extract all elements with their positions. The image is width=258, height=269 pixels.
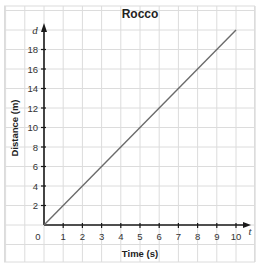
x-variable-label: t [248, 225, 252, 237]
x-tick-label: 4 [118, 231, 123, 242]
y-variable-label: d [32, 24, 38, 36]
y-tick-label: 2 [33, 200, 38, 211]
distance-time-chart: Rocco 1234567891024681012141618 Distance… [0, 0, 258, 269]
y-axis-arrow-icon [41, 23, 47, 32]
chart-title: Rocco [122, 7, 159, 21]
y-tick-label: 16 [27, 64, 38, 75]
x-tick-label: 7 [176, 231, 181, 242]
x-axis-label: Time (s) [122, 248, 158, 259]
y-tick-label: 10 [27, 122, 38, 133]
origin-label: 0 [35, 231, 40, 242]
x-tick-label: 10 [231, 231, 242, 242]
x-tick-label: 3 [99, 231, 104, 242]
y-tick-label: 18 [27, 44, 38, 55]
y-tick-label: 14 [27, 83, 38, 94]
x-tick-label: 6 [157, 231, 162, 242]
tick-labels: 1234567891024681012141618 [27, 44, 241, 242]
y-tick-label: 12 [27, 103, 38, 114]
y-tick-label: 8 [33, 142, 38, 153]
x-tick-label: 2 [80, 231, 85, 242]
x-tick-label: 9 [214, 231, 219, 242]
x-tick-label: 1 [61, 231, 66, 242]
x-tick-label: 8 [195, 231, 200, 242]
grid-lines [4, 6, 255, 262]
y-tick-label: 4 [33, 181, 38, 192]
x-tick-label: 5 [137, 231, 142, 242]
y-axis-label: Distance (m) [9, 99, 20, 156]
y-tick-label: 6 [33, 161, 38, 172]
axes [41, 23, 251, 228]
